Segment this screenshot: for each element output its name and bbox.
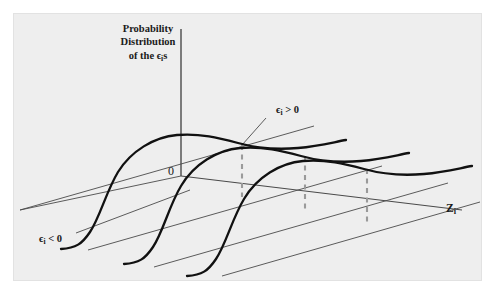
z-axis-subscript: i bbox=[454, 207, 456, 216]
grid-line-slice-2 bbox=[154, 183, 448, 267]
cdf-curves bbox=[61, 135, 472, 276]
grid-line-slice-0 bbox=[20, 126, 314, 210]
title-line-3-suffix: s bbox=[163, 50, 167, 61]
z-axis-symbol: Z bbox=[446, 202, 454, 214]
epsilon-positive-label: ϵi > 0 bbox=[276, 104, 299, 118]
cdf-curve-1 bbox=[61, 135, 346, 249]
epsilon-negative-label: ϵi < 0 bbox=[39, 233, 62, 247]
title-line-1: Probability bbox=[100, 22, 196, 35]
plot-svg bbox=[14, 14, 482, 281]
epsilon-negative-subscript: i bbox=[43, 237, 45, 246]
title-line-2: Distribution bbox=[100, 35, 196, 48]
epsilon-negative-relation: < 0 bbox=[48, 233, 62, 244]
title-line-3-prefix: of the bbox=[129, 50, 157, 61]
epsilon-positive-relation: > 0 bbox=[285, 104, 299, 115]
z-axis-label: Zi bbox=[446, 202, 456, 217]
cdf-curve-3 bbox=[187, 161, 472, 276]
epsilon-positive-subscript: i bbox=[280, 108, 282, 117]
z-axis-line bbox=[181, 176, 462, 210]
grid-line-slice-1 bbox=[88, 166, 382, 250]
figure-title: Probability Distribution of the ϵis bbox=[100, 22, 196, 64]
title-line-3: of the ϵis bbox=[100, 49, 196, 64]
origin-tick-label: 0 bbox=[168, 164, 174, 178]
figure-panel: Probability Distribution of the ϵis 0 ϵi… bbox=[13, 13, 482, 281]
cdf-curve-2 bbox=[124, 148, 409, 264]
figure-container: Probability Distribution of the ϵis 0 ϵi… bbox=[0, 0, 495, 294]
grid-line-slice-3 bbox=[222, 202, 480, 276]
plane-front-edge bbox=[20, 176, 181, 210]
